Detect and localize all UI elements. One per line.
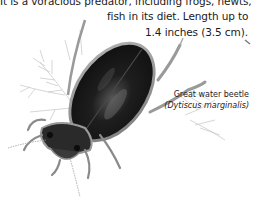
description-line-1: It is a voracious predator, including fr… <box>0 0 255 8</box>
hind-leg <box>158 45 180 80</box>
scientific-name: (Dytiscus marginalis) <box>164 100 249 111</box>
description-line-3: 1.4 inches (3.5 cm). <box>145 26 248 39</box>
common-name: Great water beetle <box>174 90 249 99</box>
beetle-head <box>41 123 92 159</box>
species-caption: Great water beetle (Dytiscus marginalis) <box>164 89 249 111</box>
description-line-2: fish in its diet. Length up to <box>107 10 248 23</box>
